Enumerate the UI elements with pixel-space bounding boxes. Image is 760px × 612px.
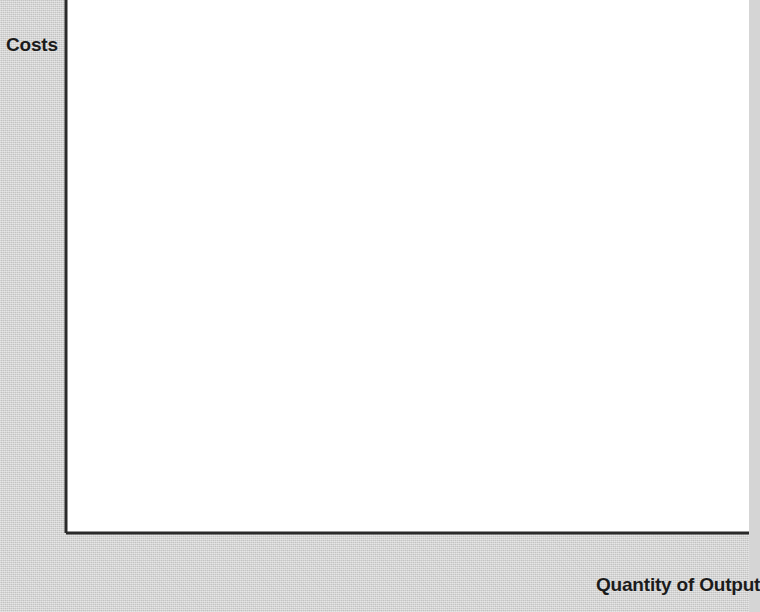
x-axis-title: Quantity of Output — [596, 574, 760, 596]
y-axis-title: Costs — [6, 34, 58, 56]
plot-background — [66, 0, 749, 533]
